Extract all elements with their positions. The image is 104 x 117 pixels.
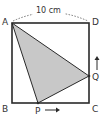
arrow-right-icon (45, 108, 60, 113)
vertex-label-a: A (2, 17, 9, 27)
point-label-q: Q (92, 72, 99, 82)
arrow-up-icon (95, 56, 100, 70)
point-p-dot (37, 102, 40, 105)
point-q-dot (88, 75, 91, 78)
vertex-label-c: C (92, 104, 98, 114)
point-label-p: P (35, 106, 41, 116)
dimension-label: 10 cm (36, 6, 61, 15)
vertex-label-d: D (92, 17, 99, 27)
geometry-diagram: 10 cm A D B C P Q (0, 0, 104, 117)
vertex-label-b: B (2, 104, 8, 114)
shaded-triangle-apq (12, 23, 89, 103)
